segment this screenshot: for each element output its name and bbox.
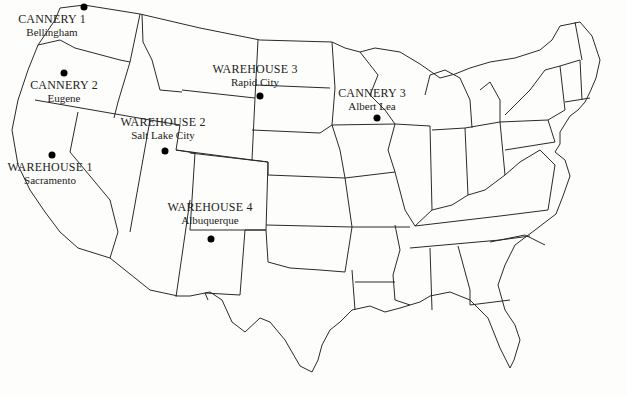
label-cannery-2: CANNERY 2 Eugene [30,79,98,105]
marker-warehouse-1[interactable] [49,152,56,159]
map-canvas: CANNERY 1 Bellingham CANNERY 2 Eugene WA… [0,0,627,397]
label-warehouse-4: WAREHOUSE 4 Albuquerque [167,201,252,227]
location-name: CANNERY 2 [30,79,98,92]
us-states-map [0,0,627,397]
location-name: CANNERY 3 [338,87,406,100]
location-city: Rapid City [212,76,297,89]
location-city: Salt Lake City [120,129,205,142]
location-city: Albert Lea [338,100,406,113]
location-name: WAREHOUSE 1 [7,161,92,174]
label-warehouse-2: WAREHOUSE 2 Salt Lake City [120,116,205,142]
state-borders [35,14,590,310]
label-cannery-1: CANNERY 1 Bellingham [18,13,86,39]
marker-cannery-3[interactable] [374,115,381,122]
marker-warehouse-2[interactable] [162,148,169,155]
marker-warehouse-4[interactable] [208,236,215,243]
marker-warehouse-3[interactable] [257,93,264,100]
location-city: Eugene [30,92,98,105]
marker-cannery-1[interactable] [81,4,88,11]
label-warehouse-3: WAREHOUSE 3 Rapid City [212,63,297,89]
location-name: WAREHOUSE 4 [167,201,252,214]
location-name: CANNERY 1 [18,13,86,26]
location-city: Albuquerque [167,214,252,227]
location-name: WAREHOUSE 3 [212,63,297,76]
label-cannery-3: CANNERY 3 Albert Lea [338,87,406,113]
location-city: Bellingham [18,26,86,39]
marker-cannery-2[interactable] [61,70,68,77]
label-warehouse-1: WAREHOUSE 1 Sacramento [7,161,92,187]
location-name: WAREHOUSE 2 [120,116,205,129]
location-city: Sacramento [7,174,92,187]
